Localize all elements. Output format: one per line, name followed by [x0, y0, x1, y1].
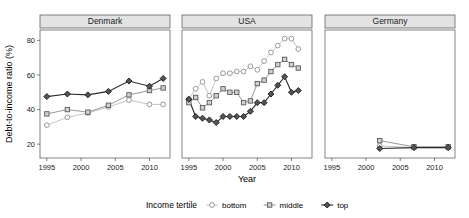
data-point-middle	[86, 110, 90, 114]
data-point-bottom	[193, 86, 198, 91]
legend-marker-middle	[267, 203, 271, 207]
data-point-middle	[161, 86, 165, 90]
y-axis-title: Debt-to-income ratio (%)	[4, 45, 14, 143]
data-point-middle	[221, 87, 225, 91]
panel-plot-area-denmark	[40, 30, 170, 158]
panel-plot-area-germany	[325, 30, 455, 158]
data-point-middle	[289, 62, 293, 66]
panel-strip-label-germany: Germany	[373, 16, 409, 26]
panel-strip-label-usa: USA	[238, 16, 256, 26]
data-point-middle	[106, 103, 110, 107]
panel-strip-label-denmark: Denmark	[88, 16, 123, 26]
x-tick-label: 2005	[392, 163, 409, 172]
x-tick-label: 1995	[323, 163, 340, 172]
data-point-middle	[276, 62, 280, 66]
data-point-bottom	[65, 115, 70, 120]
y-tick-label: 60	[27, 71, 35, 80]
y-tick-label: 20	[27, 140, 35, 149]
data-point-bottom	[296, 47, 301, 52]
data-point-middle	[193, 95, 197, 99]
data-point-bottom	[234, 69, 239, 74]
legend-label-bottom: bottom	[222, 201, 247, 210]
data-point-bottom	[207, 93, 212, 98]
data-point-middle	[296, 66, 300, 70]
data-point-middle	[65, 107, 69, 111]
data-point-middle	[45, 112, 49, 116]
data-point-bottom	[262, 59, 267, 64]
y-tick-label: 40	[27, 105, 35, 114]
data-point-middle	[248, 99, 252, 103]
data-point-middle	[214, 94, 218, 98]
x-tick-label: 1995	[38, 163, 55, 172]
data-point-bottom	[200, 79, 205, 84]
data-point-bottom	[214, 76, 219, 81]
data-point-middle	[378, 139, 382, 143]
x-tick-label: 2005	[107, 163, 124, 172]
y-tick-label: 80	[27, 36, 35, 45]
data-point-bottom	[289, 36, 294, 41]
data-point-bottom	[241, 69, 246, 74]
data-point-middle	[255, 81, 259, 85]
x-tick-label: 2010	[141, 163, 158, 172]
data-point-middle	[207, 100, 211, 104]
data-point-middle	[241, 100, 245, 104]
data-point-middle	[228, 90, 232, 94]
data-point-middle	[200, 106, 204, 110]
data-point-bottom	[227, 71, 232, 76]
data-point-bottom	[248, 64, 253, 69]
x-tick-label: 2010	[283, 163, 300, 172]
x-tick-label: 2005	[249, 163, 266, 172]
data-point-bottom	[161, 102, 166, 107]
legend-label-top: top	[337, 201, 349, 210]
legend-marker-top	[324, 202, 330, 208]
x-tick-label: 1995	[180, 163, 197, 172]
data-point-middle	[282, 57, 286, 61]
legend-title: Income tertile	[146, 200, 197, 210]
x-axis-title: Year	[238, 174, 256, 184]
panel-germany: Germany1995200020052010	[323, 15, 455, 172]
legend-marker-bottom	[210, 203, 215, 208]
data-point-bottom	[255, 67, 260, 72]
data-point-bottom	[275, 43, 280, 48]
faceted-line-chart: Denmark199520002005201020406080USA199520…	[0, 0, 469, 218]
data-point-middle	[262, 78, 266, 82]
data-point-bottom	[127, 98, 132, 103]
x-tick-label: 2000	[215, 163, 232, 172]
data-point-bottom	[44, 123, 49, 128]
data-point-bottom	[147, 102, 152, 107]
x-tick-label: 2000	[358, 163, 375, 172]
data-point-bottom	[269, 50, 274, 55]
legend: Income tertilebottommiddletop	[146, 200, 349, 210]
data-point-middle	[235, 90, 239, 94]
x-tick-label: 2000	[73, 163, 90, 172]
legend-label-middle: middle	[280, 201, 304, 210]
panel-usa: USA1995200020052010	[180, 15, 312, 172]
chart-figure: Denmark199520002005201020406080USA199520…	[0, 0, 469, 218]
data-point-bottom	[282, 36, 287, 41]
x-tick-label: 2010	[426, 163, 443, 172]
data-point-bottom	[221, 71, 226, 76]
data-point-middle	[269, 69, 273, 73]
data-point-middle	[127, 93, 131, 97]
panel-denmark: Denmark199520002005201020406080	[27, 15, 170, 172]
